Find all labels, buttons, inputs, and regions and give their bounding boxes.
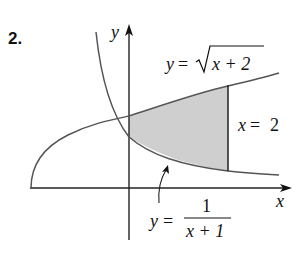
label-hyp-numerator: 1 <box>202 196 211 216</box>
label-sqrt-eq: = <box>178 54 188 74</box>
y-axis-label: y <box>109 22 119 42</box>
figure: 2. y x y = x + 2 x = 2 y = 1 x + 1 <box>0 0 306 262</box>
label-x-value: 2 <box>270 115 279 135</box>
x-axis-label: x <box>275 191 284 211</box>
label-sqrt-curve: y = x + 2 <box>164 46 264 74</box>
label-hyp-eq: = <box>163 211 173 231</box>
pointer-arrowhead-icon <box>162 165 169 174</box>
label-x-eq: = <box>250 115 260 135</box>
problem-number: 2. <box>8 29 22 48</box>
label-vertical-line: x = 2 <box>237 115 279 135</box>
label-sqrt-radicand: x + 2 <box>211 54 250 74</box>
pointer-arrow <box>159 170 166 203</box>
label-sqrt-lhs: y <box>164 54 174 74</box>
label-x-var: x <box>237 115 246 135</box>
label-hyp-lhs: y <box>148 211 158 231</box>
label-hyp-denominator: x + 1 <box>185 221 224 241</box>
label-hyperbola: y = 1 x + 1 <box>148 196 231 241</box>
shaded-region <box>129 86 228 171</box>
